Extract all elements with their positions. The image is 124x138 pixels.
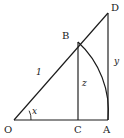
- geometry-diagram-canvas: O A D B C x 1 z y: [0, 0, 124, 138]
- length-label-AD: y: [113, 56, 120, 66]
- angle-label-x: x: [32, 106, 37, 116]
- geometry-figure: O A D B C x 1 z y: [0, 0, 124, 138]
- angle-arc-at-O: [29, 111, 31, 120]
- length-label-BC: z: [81, 78, 87, 88]
- vertex-label-A: A: [102, 124, 111, 135]
- vertex-label-O: O: [4, 124, 12, 135]
- vertex-label-B: B: [62, 30, 69, 41]
- vertex-label-C: C: [74, 124, 82, 135]
- vertex-label-D: D: [111, 2, 119, 13]
- segment-hypotenuse-OD: [14, 13, 108, 120]
- length-label-OB: 1: [36, 67, 42, 77]
